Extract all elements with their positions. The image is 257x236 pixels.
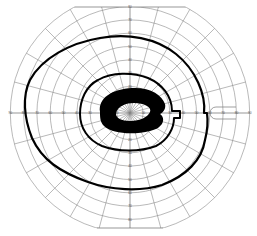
tick-left-90: 90 — [9, 111, 13, 115]
tick-left-40: 40 — [75, 111, 79, 115]
visual-field-chart: 9080706050403020101020304050607080901020… — [0, 0, 257, 236]
tick-down-40: 40 — [128, 164, 132, 168]
tick-down-20: 20 — [128, 138, 132, 142]
tick-down-80: 80 — [128, 218, 132, 222]
tick-down-60: 60 — [128, 191, 132, 195]
tick-right-90: 90 — [248, 111, 252, 115]
tick-up-60: 60 — [128, 31, 132, 35]
tick-down-70: 70 — [128, 204, 132, 208]
tick-right-50: 50 — [195, 111, 199, 115]
tick-down-50: 50 — [128, 178, 132, 182]
tick-left-30: 30 — [88, 111, 92, 115]
tick-right-70: 70 — [221, 111, 225, 115]
tick-down-30: 30 — [128, 151, 132, 155]
tick-left-70: 70 — [35, 111, 39, 115]
tick-left-50: 50 — [62, 111, 66, 115]
tick-right-10: 10 — [142, 111, 146, 115]
tick-up-70: 70 — [128, 18, 132, 22]
tick-left-60: 60 — [48, 111, 52, 115]
tick-up-20: 20 — [128, 85, 132, 89]
tick-up-50: 50 — [128, 45, 132, 49]
tick-right-40: 40 — [181, 111, 185, 115]
tick-right-80: 80 — [235, 111, 239, 115]
tick-up-40: 40 — [128, 58, 132, 62]
